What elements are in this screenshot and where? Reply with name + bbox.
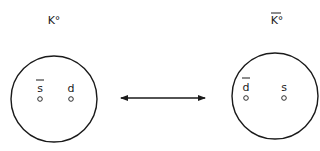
- quark-anti-d: d: [242, 78, 250, 100]
- quark-d: d: [68, 82, 75, 101]
- quark-symbol: s: [37, 82, 43, 95]
- quark-dot: [244, 96, 249, 101]
- quark-s: s: [281, 81, 287, 100]
- quark-anti-s: s: [36, 80, 44, 101]
- quark-dot: [69, 97, 74, 102]
- quark-symbol: s: [281, 81, 287, 94]
- k0-particle: K° s d: [11, 14, 97, 142]
- anti-k0-particle: K° d s: [232, 13, 318, 139]
- kaon-mixing-diagram: K° s d K° d s: [0, 0, 320, 151]
- quark-dot: [38, 97, 43, 102]
- k0-label: K°: [48, 14, 61, 27]
- k0-boundary-circle: [11, 56, 97, 142]
- quark-symbol: d: [68, 82, 75, 95]
- anti-k0-label: K°: [271, 14, 284, 27]
- quark-dot: [282, 96, 287, 101]
- quark-symbol: d: [243, 81, 250, 94]
